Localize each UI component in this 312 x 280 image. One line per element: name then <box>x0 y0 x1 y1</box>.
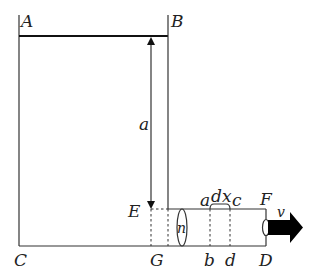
height-arrow-up-icon <box>147 37 155 45</box>
label-dx: dx <box>211 186 232 206</box>
height-arrow-down-icon <box>147 201 155 209</box>
label-v: v <box>277 204 285 220</box>
label-b-point: B <box>170 11 184 31</box>
label-section-c: c <box>232 190 242 210</box>
label-d-point: D <box>258 250 273 270</box>
velocity-arrow-icon <box>268 212 303 243</box>
label-section-b: b <box>204 250 215 270</box>
diagram: A B C G D E F a a dx c b d n v <box>0 0 312 280</box>
label-a-point: A <box>19 11 33 31</box>
label-e-point: E <box>127 201 141 221</box>
label-c-point: C <box>14 250 27 270</box>
label-section-a: a <box>200 190 210 210</box>
label-n: n <box>177 220 186 236</box>
label-section-d: d <box>225 250 236 270</box>
label-g-point: G <box>150 250 164 270</box>
label-f-point: F <box>259 189 273 209</box>
label-height: a <box>139 114 149 134</box>
